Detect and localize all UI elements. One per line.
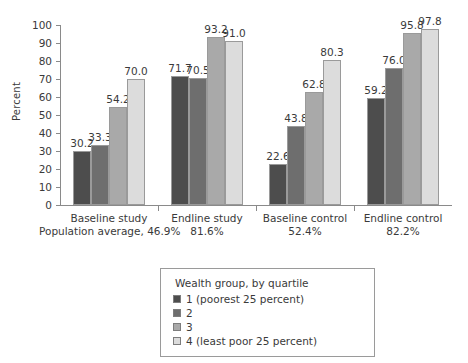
bar — [305, 92, 323, 205]
bar — [73, 151, 91, 205]
legend-item-label: 2 — [186, 306, 193, 320]
x-axis-group-separator — [354, 205, 355, 211]
y-axis-tick-label: 20 — [18, 164, 52, 174]
bar-chart: Percent 0102030405060708090100 30.233.35… — [0, 0, 468, 363]
legend-entries: 1 (poorest 25 percent)234 (least poor 25… — [173, 292, 364, 348]
bar — [385, 68, 403, 205]
y-axis-tick-label: 100 — [18, 20, 52, 30]
bar-value-label: 91.0 — [219, 28, 249, 39]
bar — [189, 78, 207, 205]
x-axis-group-label: Endline control82.2% — [333, 212, 468, 238]
x-axis-group-separator — [158, 205, 159, 211]
y-axis-tick-label: 30 — [18, 146, 52, 156]
bar — [287, 126, 305, 205]
y-axis-tick-label: 60 — [18, 92, 52, 102]
legend: Wealth group, by quartile 1 (poorest 25 … — [160, 268, 375, 357]
bar — [421, 29, 439, 205]
bar — [323, 60, 341, 205]
y-axis-tick-label: 0 — [18, 200, 52, 210]
legend-item-label: 1 (poorest 25 percent) — [186, 292, 304, 306]
y-axis-tick-label: 70 — [18, 74, 52, 84]
legend-item: 1 (poorest 25 percent) — [173, 292, 364, 306]
bar-value-label: 80.3 — [317, 47, 347, 58]
legend-swatch-icon — [173, 295, 181, 303]
bar — [367, 98, 385, 205]
legend-swatch-icon — [173, 337, 181, 345]
y-axis-tick-label: 50 — [18, 110, 52, 120]
legend-item: 3 — [173, 320, 364, 334]
bar — [225, 41, 243, 205]
bar — [91, 145, 109, 205]
bar-value-label: 97.8 — [415, 16, 445, 27]
y-axis-tick-label: 10 — [18, 182, 52, 192]
legend-swatch-icon — [173, 309, 181, 317]
legend-item-label: 4 (least poor 25 percent) — [186, 334, 317, 348]
legend-title: Wealth group, by quartile — [175, 276, 364, 290]
bar — [171, 76, 189, 205]
legend-item: 4 (least poor 25 percent) — [173, 334, 364, 348]
bar — [127, 79, 145, 205]
population-average-value: 81.6% — [190, 225, 223, 237]
population-average-prefix: Population average, — [39, 225, 147, 237]
x-axis-group-name: Endline control — [333, 212, 468, 225]
y-axis-tick-label: 90 — [18, 38, 52, 48]
legend-item-label: 3 — [186, 320, 193, 334]
bar — [403, 33, 421, 205]
population-average-value: 52.4% — [288, 225, 321, 237]
y-axis-tick-label: 80 — [18, 56, 52, 66]
bar — [269, 164, 287, 205]
bar — [207, 37, 225, 205]
x-axis-group-separator — [256, 205, 257, 211]
legend-swatch-icon — [173, 323, 181, 331]
legend-item: 2 — [173, 306, 364, 320]
y-axis-tick-label: 40 — [18, 128, 52, 138]
x-axis-group-value: 82.2% — [333, 225, 468, 238]
population-average-value: 82.2% — [386, 225, 419, 237]
bar-value-label: 70.0 — [121, 66, 151, 77]
bar — [109, 107, 127, 205]
plot-area: 30.233.354.270.071.770.593.291.022.643.8… — [60, 25, 452, 205]
